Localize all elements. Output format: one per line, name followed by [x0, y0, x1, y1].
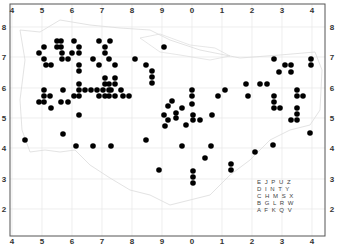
occurrence-dot: [41, 87, 47, 93]
occurrence-dot: [100, 87, 106, 93]
occurrence-dot: [82, 87, 88, 93]
occurrence-dot: [208, 143, 214, 149]
occurrence-dot: [36, 50, 42, 56]
occurrence-dot: [76, 87, 82, 93]
occurrence-dot: [106, 56, 112, 62]
occurrence-dot: [96, 62, 102, 68]
occurrence-dot: [294, 117, 300, 123]
occurrence-dot: [102, 44, 108, 50]
y-tick-label: 2: [330, 205, 335, 214]
occurrence-dot: [161, 112, 167, 118]
x-tick-label: 4: [10, 237, 15, 246]
occurrence-dot: [190, 174, 196, 180]
y-tick-label: 5: [330, 114, 335, 123]
y-tick-label: 4: [330, 144, 335, 153]
occurrence-dot: [179, 105, 185, 111]
x-tick-label: 8: [130, 237, 135, 246]
occurrence-dot: [308, 62, 314, 68]
occurrence-dot: [294, 93, 300, 99]
y-tick-label: 6: [330, 84, 335, 93]
occurrence-dot: [165, 103, 171, 109]
occurrence-dot: [107, 38, 113, 44]
occurrence-dot: [288, 69, 294, 75]
occurrence-dot: [243, 81, 249, 87]
occurrence-dot: [169, 98, 175, 104]
y-tick-label: 3: [2, 175, 7, 184]
x-tick-label: 7: [100, 237, 105, 246]
occurrence-dot: [71, 93, 77, 99]
x-tick-label: 0: [190, 6, 195, 15]
occurrence-dot: [112, 81, 118, 87]
occurrence-dot: [43, 62, 49, 68]
occurrence-dot: [149, 74, 155, 80]
occurrence-dot: [112, 75, 118, 81]
occurrence-dot: [149, 80, 155, 86]
occurrence-dot: [277, 105, 283, 111]
occurrence-dot: [228, 167, 234, 173]
occurrence-dot: [264, 81, 270, 87]
occurrence-dot: [48, 62, 54, 68]
occurrence-dot: [252, 149, 258, 155]
occurrence-dot: [271, 105, 277, 111]
occurrence-dot: [69, 50, 75, 56]
x-tick-label: 9: [160, 6, 165, 15]
occurrence-dot: [58, 38, 64, 44]
occurrence-dot: [36, 99, 42, 105]
occurrence-dot: [179, 143, 185, 149]
occurrence-dot: [90, 143, 96, 149]
occurrence-dot: [190, 117, 196, 123]
occurrence-dot: [143, 62, 149, 68]
occurrence-dot: [94, 87, 100, 93]
x-tick-label: 3: [280, 6, 285, 15]
occurrence-dot: [47, 93, 53, 99]
occurrence-dot: [245, 93, 251, 99]
occurrence-dot: [76, 81, 82, 87]
occurrence-dot: [60, 87, 66, 93]
y-tick-label: 6: [2, 84, 7, 93]
occurrence-dot: [189, 87, 195, 93]
x-tick-label: 1: [220, 237, 225, 246]
distribution-map: 45678901234 45678901234 8765432 8765432 …: [0, 0, 337, 246]
occurrence-dot: [282, 62, 288, 68]
occurrence-dot: [132, 56, 138, 62]
legend-row: E J P U Z: [257, 179, 292, 185]
occurrence-dot: [41, 93, 47, 99]
occurrence-dot: [190, 180, 196, 186]
occurrence-dot: [106, 81, 112, 87]
occurrence-dot: [173, 110, 179, 116]
occurrence-dot: [112, 62, 118, 68]
occurrence-dot: [118, 87, 124, 93]
occurrence-dot: [288, 117, 294, 123]
y-tick-label: 7: [2, 53, 7, 62]
occurrence-dot: [143, 137, 149, 143]
occurrence-dot: [71, 38, 77, 44]
x-tick-label: 2: [250, 6, 255, 15]
y-tick-label: 8: [2, 23, 7, 32]
occurrence-dot: [60, 131, 66, 137]
occurrence-dot: [76, 62, 82, 68]
occurrence-dot: [126, 93, 132, 99]
occurrence-dot: [189, 101, 195, 107]
occurrence-dot: [88, 87, 94, 93]
occurrence-dot: [22, 137, 28, 143]
occurrence-dot: [108, 87, 114, 93]
x-tick-label: 6: [70, 237, 75, 246]
occurrence-dot: [58, 44, 64, 50]
occurrence-dot: [65, 56, 71, 62]
occurrence-dot: [189, 93, 195, 99]
occurrence-dot: [156, 167, 162, 173]
occurrence-dot: [76, 50, 82, 56]
x-tick-label: 5: [40, 237, 45, 246]
x-tick-label: 4: [310, 237, 315, 246]
legend-row: C H M S X: [257, 193, 294, 199]
occurrence-dot: [108, 143, 114, 149]
occurrence-dot: [59, 56, 65, 62]
x-tick-label: 4: [310, 6, 315, 15]
y-tick-label: 8: [330, 23, 335, 32]
legend-row: B G L R W: [257, 200, 294, 206]
occurrence-dot: [271, 93, 277, 99]
occurrence-dot: [294, 87, 300, 93]
occurrence-dot: [222, 87, 228, 93]
occurrence-dot: [165, 117, 171, 123]
y-tick-label: 7: [330, 53, 335, 62]
